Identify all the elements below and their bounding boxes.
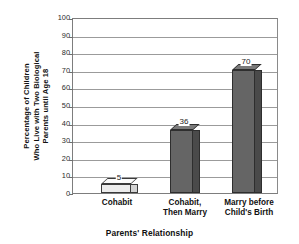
y-tickmark-100 bbox=[69, 19, 73, 20]
bar-marry-before-childs-birth-side bbox=[255, 70, 262, 193]
y-tickmark-30 bbox=[69, 142, 73, 143]
y-tickmark-80 bbox=[69, 54, 73, 55]
y-tickmark-10 bbox=[69, 177, 73, 178]
y-tickmark-20 bbox=[69, 160, 73, 161]
y-tickmark-50 bbox=[69, 107, 73, 108]
y-tickmark-70 bbox=[69, 72, 73, 73]
y-tick-label-60: 60 bbox=[44, 85, 70, 92]
y-tick-label-50: 50 bbox=[44, 102, 70, 109]
bar-chart: Percentage of Children Who Live with Two… bbox=[0, 0, 299, 244]
y-tickmark-60 bbox=[69, 89, 73, 90]
bar-cohabit-side bbox=[131, 184, 138, 193]
bar-cohabit-then-marry-side bbox=[193, 130, 200, 193]
y-tick-label-30: 30 bbox=[44, 137, 70, 144]
y-tickmark-40 bbox=[69, 125, 73, 126]
value-label-marry-before-childs-birth: 70 bbox=[241, 58, 252, 66]
y-tick-label-100: 100 bbox=[44, 14, 70, 21]
y-tick-label-40: 40 bbox=[44, 120, 70, 127]
x-category-label-cohabit-then-marry: Cohabit, Then Marry bbox=[163, 198, 207, 218]
x-category-label-cohabit: Cohabit bbox=[102, 198, 132, 208]
y-tick-label-20: 20 bbox=[44, 155, 70, 162]
gridline-80 bbox=[73, 54, 277, 55]
y-axis-title-line-2: Who Live with Two Biological bbox=[31, 52, 41, 161]
y-axis-title-line-1: Percentage of Children bbox=[22, 52, 32, 161]
bar-cohabit-then-marry[interactable] bbox=[170, 130, 193, 193]
bar-cohabit-front bbox=[101, 184, 131, 193]
y-tick-label-70: 70 bbox=[44, 67, 70, 74]
bar-cohabit[interactable] bbox=[101, 184, 131, 193]
x-category-label-marry-before-childs-birth-line-2: Child's Birth bbox=[224, 208, 274, 218]
x-axis-title: Parents' Relationship bbox=[0, 228, 299, 238]
value-label-cohabit-then-marry: 36 bbox=[179, 118, 190, 126]
y-tickmark-0 bbox=[69, 194, 73, 195]
plot-area: 5 36 70 bbox=[72, 18, 278, 194]
bar-marry-before-childs-birth-front bbox=[232, 70, 255, 193]
y-tickmark-90 bbox=[69, 37, 73, 38]
bar-marry-before-childs-birth[interactable] bbox=[232, 70, 255, 193]
x-category-label-marry-before-childs-birth: Marry before Child's Birth bbox=[224, 198, 274, 218]
x-category-label-cohabit-then-marry-line-1: Cohabit, bbox=[163, 198, 207, 208]
y-tick-label-0: 0 bbox=[44, 190, 70, 197]
x-category-label-cohabit-then-marry-line-2: Then Marry bbox=[163, 208, 207, 218]
y-tick-label-90: 90 bbox=[44, 32, 70, 39]
y-tick-label-80: 80 bbox=[44, 49, 70, 56]
gridline-90 bbox=[73, 37, 277, 38]
value-label-cohabit: 5 bbox=[116, 174, 122, 182]
x-category-label-marry-before-childs-birth-line-1: Marry before bbox=[224, 198, 274, 208]
y-axis-tick-labels: 100 90 80 70 60 50 40 30 20 10 0 bbox=[42, 0, 70, 244]
bar-cohabit-then-marry-front bbox=[170, 130, 193, 193]
y-tick-label-10: 10 bbox=[44, 173, 70, 180]
x-category-label-cohabit-line-1: Cohabit bbox=[102, 198, 132, 208]
